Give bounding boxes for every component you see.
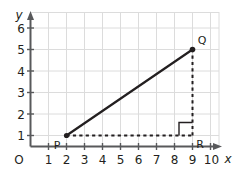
- tick-marks: [27, 28, 211, 150]
- point-label-P: P: [54, 139, 61, 152]
- x-tick-label-7: 7: [153, 153, 161, 167]
- origin-label: O: [14, 153, 23, 167]
- point-label-R: R: [196, 138, 204, 151]
- x-tick-label-9: 9: [189, 153, 197, 167]
- x-tick-label-3: 3: [81, 153, 89, 167]
- gridlines: [31, 12, 220, 147]
- x-tick-label-4: 4: [99, 153, 107, 167]
- x-axis-label: x: [223, 152, 232, 166]
- x-axis-arrowhead: [213, 143, 222, 150]
- y-tick-label-3: 3: [17, 86, 25, 100]
- x-tick-label-2: 2: [63, 153, 71, 167]
- y-tick-label-5: 5: [17, 43, 25, 57]
- x-tick-label-6: 6: [135, 153, 143, 167]
- point-label-Q: Q: [198, 34, 207, 47]
- y-tick-label-1: 1: [17, 129, 25, 143]
- x-tick-label-10: 10: [204, 153, 219, 167]
- x-tick-label-5: 5: [117, 153, 125, 167]
- y-axis-label: y: [14, 8, 23, 22]
- point-marker-Q: [190, 47, 196, 53]
- coordinate-grid-figure: 1 2 3 4 5 6 7 8 9 10 1 2 3 4 5 6 O y x P…: [0, 0, 238, 172]
- x-tick-label-8: 8: [171, 153, 179, 167]
- graph-svg: 1 2 3 4 5 6 7 8 9 10 1 2 3 4 5 6 O y x P…: [0, 0, 238, 172]
- y-tick-label-6: 6: [17, 22, 25, 36]
- right-angle-marker: [179, 123, 192, 136]
- point-marker-P: [64, 133, 69, 138]
- y-tick-label-2: 2: [17, 108, 25, 122]
- x-tick-label-1: 1: [45, 153, 53, 167]
- y-tick-label-4: 4: [17, 65, 25, 79]
